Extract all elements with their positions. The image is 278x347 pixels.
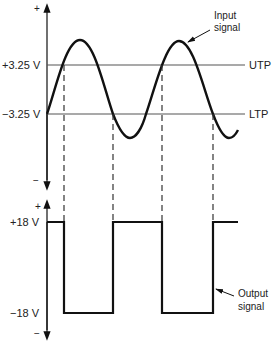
output-low-value: −18 V	[10, 307, 40, 319]
input-signal-label-1: Input	[214, 10, 236, 21]
input-signal-label-2: signal	[214, 22, 240, 33]
transition-guides	[64, 65, 213, 222]
output-signal-label-1: Output	[238, 288, 268, 299]
input-signal-wave	[47, 40, 238, 138]
output-axis-plus: +	[35, 201, 41, 212]
utp-label: UTP	[249, 59, 271, 71]
utp-value: +3.25 V	[2, 59, 41, 71]
output-graph: + − +18 V −18 V Output signal	[10, 201, 268, 339]
output-signal-label-2: signal	[238, 301, 264, 312]
input-axis-minus: −	[33, 175, 39, 186]
ltp-value: −3.25 V	[2, 108, 41, 120]
output-high-value: +18 V	[10, 216, 40, 228]
input-graph: + − +3.25 V −3.25 V UTP LTP Input signal	[2, 3, 271, 186]
ltp-label: LTP	[249, 108, 268, 120]
schmitt-trigger-diagram: + − +3.25 V −3.25 V UTP LTP Input signal…	[0, 0, 278, 347]
output-signal-pointer	[216, 289, 234, 296]
input-signal-pointer	[188, 30, 210, 42]
output-axis-minus: −	[34, 328, 40, 339]
input-axis-plus: +	[34, 3, 40, 14]
output-signal-wave	[47, 222, 238, 313]
